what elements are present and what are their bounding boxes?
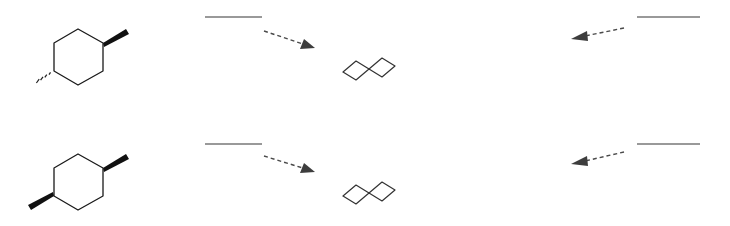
methyl-hash-down <box>36 71 53 84</box>
dashed-arrow-left-shaft <box>585 28 624 36</box>
dashed-arrow-left-head <box>571 31 588 41</box>
hash-stroke-4 <box>36 79 39 83</box>
hash-stroke-2 <box>45 75 47 78</box>
dashed-arrow-left-shaft <box>585 152 624 161</box>
dashed-arrow-right-shaft <box>264 31 306 45</box>
chemistry-diagram <box>0 0 730 226</box>
methyl-wedge-up <box>103 29 129 47</box>
dashed-arrow-left <box>571 28 624 41</box>
chair-conformation <box>343 182 395 204</box>
methyl-wedge-up-right <box>103 154 129 172</box>
trans-1,4-dimethylcyclohexane <box>36 29 129 85</box>
cyclohexane-ring <box>54 29 103 85</box>
dashed-arrow-right <box>264 31 315 49</box>
dashed-arrow-left-head <box>571 156 588 166</box>
cis-1,4-dimethylcyclohexane <box>28 154 129 210</box>
methyl-wedge-up-left <box>28 192 54 210</box>
dashed-arrow-right-head <box>300 163 315 173</box>
dashed-arrow-right-head <box>300 39 315 49</box>
hash-stroke-1 <box>49 72 51 74</box>
dashed-arrow-right <box>264 156 315 173</box>
row-cis <box>28 144 700 210</box>
diagram-canvas <box>0 0 730 226</box>
dashed-arrow-left <box>571 152 624 166</box>
dashed-arrow-right-shaft <box>264 156 306 169</box>
row-trans <box>36 17 700 85</box>
cyclohexane-ring <box>54 154 103 210</box>
hash-stroke-3 <box>41 77 43 80</box>
chair-conformation <box>343 58 395 80</box>
